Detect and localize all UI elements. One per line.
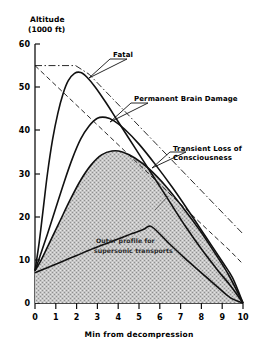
y-tick-0: 0 <box>24 299 30 308</box>
chart-container: Altitude (1000 ft) 60 50 40 30 20 10 0 <box>0 0 264 347</box>
x-tick-3: 3 <box>95 313 101 322</box>
y-tick-10: 10 <box>19 256 31 265</box>
x-tick-2: 2 <box>74 313 80 322</box>
y-axis-title: Altitude <box>30 15 65 24</box>
y-axis-tick-labels: 60 50 40 30 20 10 0 <box>19 40 31 308</box>
annotation-tlc-line1: Transient Loss of <box>173 145 243 153</box>
x-axis-title: Min from decompression <box>85 330 194 339</box>
annotation-outer-profile-line1: Outer profile for <box>96 237 156 245</box>
y-tick-60: 60 <box>19 40 31 49</box>
annotation-permanent-brain-damage: Permanent Brain Damage <box>110 95 238 122</box>
annotation-fatal: Fatal <box>89 51 133 78</box>
x-tick-9: 9 <box>219 313 225 322</box>
y-tick-30: 30 <box>19 170 31 179</box>
annotation-fatal-label: Fatal <box>113 51 133 59</box>
annotation-transient-loss-of-consciousness: Transient Loss of Consciousness <box>152 145 243 168</box>
y-axis-unit: (1000 ft) <box>28 25 65 34</box>
altitude-decompression-chart: Altitude (1000 ft) 60 50 40 30 20 10 0 <box>0 0 264 347</box>
x-tick-4: 4 <box>115 313 121 322</box>
x-tick-5: 5 <box>136 313 142 322</box>
y-tick-50: 50 <box>19 83 31 92</box>
x-tick-8: 8 <box>199 313 205 322</box>
x-tick-10: 10 <box>237 313 249 322</box>
x-tick-7: 7 <box>178 313 184 322</box>
x-tick-1: 1 <box>53 313 59 322</box>
annotation-tlc-line2: Consciousness <box>173 154 232 162</box>
y-tick-20: 20 <box>19 213 31 222</box>
y-tick-40: 40 <box>19 126 31 135</box>
x-axis-tick-labels: 0 1 2 3 4 5 6 7 8 9 10 <box>32 313 249 322</box>
annotation-permanent-brain-damage-label: Permanent Brain Damage <box>134 95 238 103</box>
x-tick-6: 6 <box>157 313 163 322</box>
x-axis-ticks <box>35 303 243 309</box>
x-tick-0: 0 <box>32 313 38 322</box>
annotation-outer-profile-line2: supersonic transports <box>94 247 173 255</box>
